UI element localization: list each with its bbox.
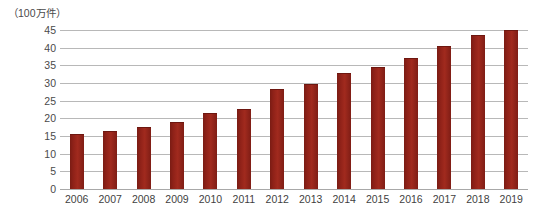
gridline: [60, 171, 528, 172]
x-tick-label: 2018: [466, 193, 489, 205]
y-tick-label: 0: [4, 183, 56, 195]
gridline: [60, 136, 528, 137]
y-tick-label: 45: [4, 24, 56, 36]
x-tick-label: 2014: [332, 193, 355, 205]
x-tick-label: 2012: [266, 193, 289, 205]
x-axis: 2006200720082009201020112012201320142015…: [60, 193, 528, 213]
bar: [404, 58, 418, 189]
x-tick-label: 2010: [199, 193, 222, 205]
y-tick-label: 35: [4, 59, 56, 71]
gridline: [60, 154, 528, 155]
bar: [70, 134, 84, 189]
x-tick-label: 2013: [299, 193, 322, 205]
y-tick-label: 40: [4, 42, 56, 54]
y-axis-unit-label: （100万件）: [8, 5, 66, 20]
y-tick-label: 15: [4, 130, 56, 142]
x-tick-label: 2008: [132, 193, 155, 205]
x-tick-label: 2006: [65, 193, 88, 205]
bar: [170, 122, 184, 189]
x-tick-label: 2017: [433, 193, 456, 205]
x-tick-label: 2011: [233, 193, 256, 205]
gridline: [60, 83, 528, 84]
gridline: [60, 30, 528, 31]
gridline: [60, 48, 528, 49]
x-tick-label: 2019: [500, 193, 523, 205]
gridline: [60, 101, 528, 102]
bar: [237, 109, 251, 190]
bar: [337, 73, 351, 189]
bar: [137, 127, 151, 189]
x-tick-label: 2009: [165, 193, 188, 205]
bar: [270, 89, 284, 189]
x-tick-label: 2007: [98, 193, 121, 205]
bar: [304, 84, 318, 189]
bar-chart: （100万件） 454035302520151050 2006200720082…: [0, 0, 533, 224]
y-tick-label: 10: [4, 148, 56, 160]
y-tick-label: 30: [4, 77, 56, 89]
bar: [437, 46, 451, 189]
bar: [371, 67, 385, 189]
plot-area: [60, 30, 528, 189]
bar: [504, 30, 518, 189]
gridline: [60, 65, 528, 66]
y-tick-label: 20: [4, 112, 56, 124]
x-tick-label: 2015: [366, 193, 389, 205]
gridline: [60, 118, 528, 119]
y-tick-label: 25: [4, 95, 56, 107]
bar: [471, 35, 485, 189]
x-tick-label: 2016: [399, 193, 422, 205]
bar: [103, 131, 117, 189]
y-axis: 454035302520151050: [0, 30, 56, 189]
y-tick-label: 5: [4, 165, 56, 177]
gridline: [60, 189, 528, 190]
bar: [203, 113, 217, 189]
